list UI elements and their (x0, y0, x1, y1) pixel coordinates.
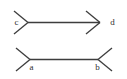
upper-figure-group: c d (14, 11, 115, 34)
label-a: a (30, 62, 34, 72)
muller-lyer-svg: c d a b (0, 0, 127, 79)
label-b: b (95, 62, 100, 72)
label-d: d (110, 17, 115, 27)
muller-lyer-figure: c d a b (0, 0, 127, 79)
top-right-fin-upper (86, 11, 100, 23)
label-c: c (15, 17, 19, 27)
bottom-left-fin-lower (16, 60, 30, 72)
bottom-right-fin-upper (98, 48, 112, 60)
top-right-fin-lower (86, 23, 100, 35)
lower-figure-group: a b (16, 48, 112, 72)
bottom-left-fin-upper (16, 48, 30, 60)
bottom-right-fin-lower (98, 60, 112, 72)
